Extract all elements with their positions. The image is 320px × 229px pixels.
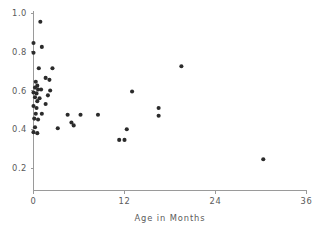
data-point [34, 106, 38, 110]
data-point [37, 66, 41, 70]
data-point [36, 118, 40, 122]
data-point [44, 76, 48, 80]
data-points-layer [31, 20, 265, 162]
data-point [157, 114, 161, 118]
data-point [261, 157, 265, 161]
x-axis-title: Age in Months [135, 213, 206, 223]
data-point [78, 113, 82, 117]
data-point [34, 80, 38, 84]
data-point [31, 51, 35, 55]
y-tick-label: 0.2 [12, 163, 27, 173]
data-point [40, 112, 44, 116]
x-axis-ticks: 0122436 [31, 191, 313, 206]
y-tick-label: 0.6 [12, 86, 27, 96]
data-point [40, 45, 44, 49]
data-point [31, 130, 35, 134]
scatter-plot-figure: 0.20.40.60.81.0 0122436 Age in Months [0, 0, 320, 229]
data-point [34, 112, 38, 116]
axes [34, 11, 308, 191]
chart-canvas: 0.20.40.60.81.0 0122436 Age in Months [0, 0, 320, 229]
data-point [117, 138, 121, 142]
data-point [179, 64, 183, 68]
y-tick-label: 0.4 [12, 124, 27, 134]
data-point [66, 113, 70, 117]
data-point [56, 126, 60, 130]
data-point [50, 66, 54, 70]
data-point [39, 87, 43, 91]
x-tick-label: 0 [31, 196, 37, 206]
y-axis-ticks: 0.20.40.60.81.0 [12, 8, 34, 173]
x-tick-label: 24 [210, 196, 222, 206]
data-point [130, 89, 134, 93]
data-point [96, 113, 100, 117]
data-point [35, 99, 39, 103]
y-tick-label: 1.0 [12, 8, 27, 18]
data-point [33, 125, 37, 129]
data-point [34, 91, 38, 95]
data-point [38, 20, 42, 24]
data-point [33, 95, 37, 99]
data-point [122, 138, 126, 142]
data-point [32, 117, 36, 121]
data-point [47, 78, 51, 82]
data-point [48, 88, 52, 92]
data-point [157, 106, 161, 110]
data-point [44, 102, 48, 106]
data-point [125, 127, 129, 131]
x-tick-label: 12 [119, 196, 131, 206]
x-tick-label: 36 [301, 196, 313, 206]
data-point [46, 93, 50, 97]
data-point [35, 131, 39, 135]
data-point [72, 123, 76, 127]
data-point [31, 41, 35, 45]
y-tick-label: 0.8 [12, 47, 27, 57]
